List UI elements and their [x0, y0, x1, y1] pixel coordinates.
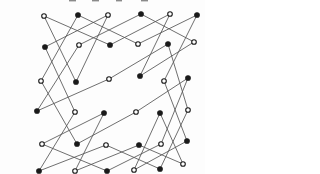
filled-vertex-dot: [185, 139, 190, 144]
filled-vertex-dot: [166, 42, 171, 47]
graph-edge: [37, 45, 79, 111]
open-vertex-dot: [107, 77, 112, 82]
filled-vertex-dot: [158, 167, 163, 172]
graph-edge: [45, 15, 108, 47]
filled-vertex-dot: [75, 142, 80, 147]
open-vertex-dot: [181, 162, 186, 167]
figure-container: [0, 0, 205, 174]
clipped-top-mark: [141, 0, 148, 1]
graph-edge: [37, 79, 109, 111]
open-vertex-dot: [106, 13, 111, 18]
open-vertex-dot: [132, 168, 137, 173]
open-vertex-dot: [159, 142, 164, 147]
filled-vertex-dot: [108, 43, 113, 48]
graph-edge: [136, 78, 188, 112]
open-vertex-dot: [134, 110, 139, 115]
filled-vertex-dot: [158, 111, 163, 116]
clipped-top-mark: [92, 0, 99, 1]
graph-edge: [42, 113, 104, 144]
graph-edge: [41, 81, 77, 144]
knight-graph-figure: [0, 0, 205, 174]
filled-vertex-dot: [139, 12, 144, 17]
graph-edge: [77, 112, 136, 144]
graph-edge: [134, 113, 160, 170]
graph-edge: [39, 145, 106, 171]
graph-edge: [79, 14, 141, 45]
open-vertex-dot: [73, 169, 78, 174]
open-vertex-dot: [73, 110, 78, 115]
graph-edge: [78, 15, 138, 44]
graph-edge: [76, 15, 108, 82]
open-vertex-dot: [40, 142, 45, 147]
filled-vertex-dot: [138, 74, 143, 79]
graph-edge: [75, 113, 104, 171]
filled-vertex-dot: [37, 169, 42, 174]
graph-edge: [39, 112, 75, 171]
graph-edge: [44, 16, 76, 82]
open-vertex-dot: [192, 40, 197, 45]
graph-edge: [45, 47, 75, 112]
graph-edge: [107, 144, 161, 171]
open-vertex-dot: [168, 12, 173, 17]
filled-vertex-dot: [195, 13, 200, 18]
filled-vertex-dot: [35, 109, 40, 114]
filled-vertex-dot: [74, 80, 79, 85]
filled-vertex-dot: [76, 13, 81, 18]
open-vertex-dot: [39, 79, 44, 84]
filled-vertex-dot: [102, 111, 107, 116]
open-vertex-dot: [136, 42, 141, 47]
graph-edge: [110, 14, 170, 45]
clipped-top-mark: [116, 0, 122, 1]
filled-vertex-dot: [186, 76, 191, 81]
graph-edge: [139, 145, 183, 164]
filled-vertex-dot: [105, 169, 110, 174]
open-vertex-dot: [42, 14, 47, 19]
graph-edge: [44, 16, 110, 45]
open-vertex-dot: [77, 43, 82, 48]
screenshot-root: { "canvas": { "width": 205, "height": 17…: [0, 0, 320, 174]
clipped-top-mark: [69, 0, 76, 1]
filled-vertex-dot: [43, 45, 48, 50]
filled-vertex-dot: [137, 143, 142, 148]
graph-edge: [75, 145, 139, 171]
open-vertex-dot: [104, 143, 109, 148]
open-vertex-dot: [162, 79, 167, 84]
open-vertex-dot: [186, 108, 191, 113]
